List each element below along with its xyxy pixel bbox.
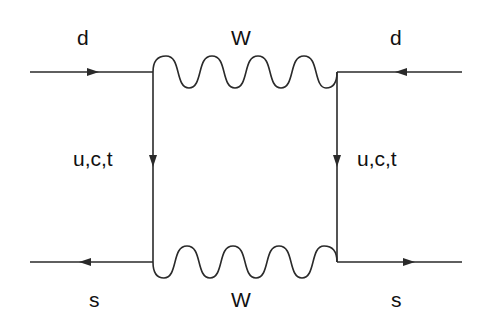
label-w-top: W [231, 27, 251, 48]
arrow-right-icon [87, 68, 99, 76]
w-boson-bottom [153, 246, 337, 278]
arrow-left-icon [395, 68, 407, 76]
label-d-top-right: d [390, 27, 402, 48]
label-quark-left: u,c,t [73, 148, 113, 169]
label-s-bottom-left: s [89, 289, 100, 310]
arrow-down-icon [149, 155, 157, 167]
arrow-down-icon [333, 155, 341, 167]
label-w-bottom: W [231, 289, 251, 310]
label-quark-right: u,c,t [357, 148, 397, 169]
feynman-diagram: d W d u,c,t u,c,t s W s [0, 0, 486, 325]
w-boson-top [153, 56, 337, 88]
label-d-top-left: d [77, 27, 89, 48]
arrow-right-icon [403, 258, 415, 266]
arrow-left-icon [79, 258, 91, 266]
label-s-bottom-right: s [391, 289, 402, 310]
